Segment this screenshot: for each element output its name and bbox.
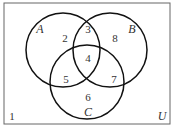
region-c-only: 6 bbox=[85, 91, 91, 103]
region-b-c: 7 bbox=[111, 73, 117, 85]
set-a-label: A bbox=[35, 22, 44, 36]
set-b-label: B bbox=[128, 22, 136, 36]
region-outside: 1 bbox=[9, 110, 15, 122]
venn-diagram: A B C U 1 2 3 4 5 6 7 8 bbox=[0, 0, 176, 131]
region-a-b: 3 bbox=[85, 23, 91, 35]
region-a-c: 5 bbox=[63, 73, 69, 85]
region-a-only: 2 bbox=[62, 32, 68, 44]
region-b-only: 8 bbox=[112, 32, 118, 44]
set-b-circle bbox=[73, 13, 147, 87]
universe-label: U bbox=[158, 109, 168, 123]
set-c-label: C bbox=[84, 105, 93, 119]
region-a-b-c: 4 bbox=[85, 52, 91, 64]
